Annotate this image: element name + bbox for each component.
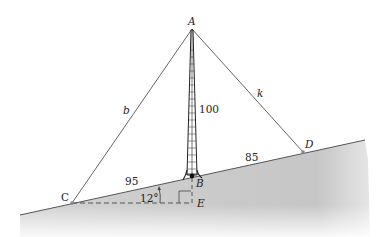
label-wire-k: k — [257, 88, 263, 99]
point-c-dot — [70, 201, 74, 205]
label-height-100: 100 — [199, 104, 219, 115]
label-angle-12: 12° — [140, 193, 159, 204]
label-a: A — [188, 16, 196, 27]
label-c: C — [61, 192, 69, 203]
wire-k — [192, 29, 303, 152]
label-cb-95: 95 — [125, 176, 138, 187]
diagram-canvas: A B C D E b k 100 95 85 12° — [0, 0, 384, 237]
label-e: E — [197, 198, 205, 209]
label-wire-b: b — [123, 105, 130, 116]
diagram-svg — [0, 0, 384, 237]
label-bd-85: 85 — [245, 152, 258, 163]
label-d: D — [305, 139, 313, 150]
point-d-dot — [301, 150, 305, 154]
point-b-dot — [190, 174, 195, 179]
label-b-point: B — [196, 178, 204, 189]
